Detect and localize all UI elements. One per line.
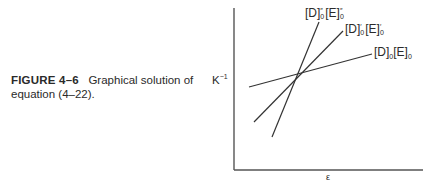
x-axis-label: ε (326, 172, 330, 182)
series-line-2 (254, 31, 343, 122)
series-label-3: [D]″0[E]″0 (305, 6, 345, 20)
series-label-1: [D]0[E]0 (374, 45, 412, 60)
series-label-2: [D]′0[E]′0 (345, 22, 385, 36)
series-line-1 (249, 54, 372, 87)
